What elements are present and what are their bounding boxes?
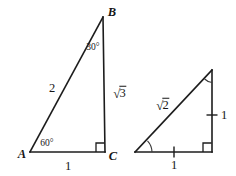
vertex-label-C: C: [109, 150, 117, 163]
radicand-value: 2: [162, 98, 169, 112]
angle-label-30-degrees: 30°: [86, 43, 99, 53]
side-BC-vertical-leg: [103, 17, 105, 152]
side-label-leg-BC: √3: [113, 86, 126, 100]
vertex-label-A: A: [18, 148, 26, 161]
side-hypotenuse-right: [135, 70, 212, 152]
radical-sqrt3: √3: [113, 86, 126, 100]
triangle-right-shape: [135, 70, 212, 152]
side-label-hypotenuse-right: √2: [156, 98, 169, 112]
angle-arc-apex: [205, 79, 212, 83]
geometry-figure: A B C 2 √3 1 30° 60° √2 1 1: [0, 0, 236, 176]
side-AB-hypotenuse: [30, 17, 103, 152]
radical-sqrt2: √2: [156, 98, 169, 112]
side-label-vertical-leg-right: 1: [221, 109, 227, 122]
right-angle-marker-corner: [203, 143, 212, 152]
side-label-horizontal-leg-right: 1: [171, 159, 177, 172]
angle-arc-left-vertex: [148, 141, 153, 152]
side-label-hypotenuse-AB: 2: [49, 82, 55, 95]
angle-label-60-degrees: 60°: [40, 139, 53, 149]
side-label-leg-AC: 1: [65, 160, 71, 173]
radicand-value: 3: [119, 86, 126, 100]
triangle-left-shape: [30, 17, 105, 152]
right-angle-marker-C: [96, 143, 105, 152]
vertex-label-B: B: [108, 6, 116, 19]
